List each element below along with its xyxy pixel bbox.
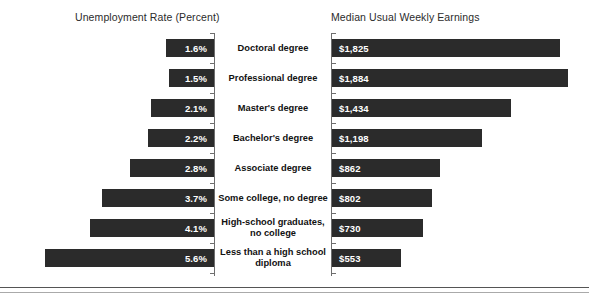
chart-row: 2.2%Bachelor's degree$1,198 bbox=[0, 123, 589, 153]
earnings-bar: $1,825 bbox=[332, 39, 560, 57]
axis-tick bbox=[210, 243, 214, 244]
axis-tick bbox=[210, 123, 214, 124]
category-label: Associate degree bbox=[215, 153, 331, 183]
unemployment-bar: 5.6% bbox=[45, 249, 214, 267]
unemployment-bar-value: 2.2% bbox=[185, 133, 207, 144]
chart-row: 2.1%Master's degree$1,434 bbox=[0, 93, 589, 123]
unemployment-bar: 2.8% bbox=[130, 159, 215, 177]
earnings-bar-value: $1,434 bbox=[339, 103, 369, 114]
earnings-bar-value: $802 bbox=[339, 193, 361, 204]
unemployment-bar: 1.5% bbox=[169, 69, 214, 87]
unemployment-bar-value: 5.6% bbox=[185, 253, 207, 264]
earnings-bar-value: $1,198 bbox=[339, 133, 369, 144]
axis-tick bbox=[332, 243, 336, 244]
axis-tick bbox=[210, 33, 214, 34]
axis-tick bbox=[332, 153, 336, 154]
axis-tick bbox=[332, 63, 336, 64]
axis-tick bbox=[210, 93, 214, 94]
category-label: High-school graduates, no college bbox=[215, 213, 331, 243]
unemployment-bar: 2.2% bbox=[148, 129, 214, 147]
category-label: Doctoral degree bbox=[215, 33, 331, 63]
chart-row: 1.6%Doctoral degree$1,825 bbox=[0, 33, 589, 63]
axis-tick bbox=[210, 183, 214, 184]
category-label: Some college, no degree bbox=[215, 183, 331, 213]
earnings-bar-value: $862 bbox=[339, 163, 361, 174]
bottom-divider-rule bbox=[0, 287, 589, 288]
column-header-weekly-earnings: Median Usual Weekly Earnings bbox=[331, 11, 480, 23]
unemployment-bar-value: 3.7% bbox=[185, 193, 207, 204]
axis-tick bbox=[332, 93, 336, 94]
category-label: Master's degree bbox=[215, 93, 331, 123]
earnings-bar: $1,884 bbox=[332, 69, 568, 87]
axis-tick bbox=[210, 63, 214, 64]
unemployment-bar: 4.1% bbox=[90, 219, 214, 237]
earnings-bar-value: $1,825 bbox=[339, 43, 369, 54]
category-label: Less than a high school diploma bbox=[215, 243, 331, 273]
unemployment-bar-value: 1.6% bbox=[185, 43, 207, 54]
axis-tick bbox=[210, 273, 214, 274]
unemployment-bar-value: 1.5% bbox=[185, 73, 207, 84]
education-unemployment-earnings-chart: Unemployment Rate (Percent) Median Usual… bbox=[0, 0, 589, 294]
earnings-bar: $730 bbox=[332, 219, 423, 237]
earnings-bar: $1,434 bbox=[332, 99, 511, 117]
category-label: Bachelor's degree bbox=[215, 123, 331, 153]
chart-row: 1.5%Professional degree$1,884 bbox=[0, 63, 589, 93]
plot-area: 1.6%Doctoral degree$1,8251.5%Professiona… bbox=[0, 33, 589, 276]
unemployment-bar-value: 4.1% bbox=[185, 223, 207, 234]
axis-tick bbox=[210, 153, 214, 154]
axis-tick bbox=[332, 213, 336, 214]
chart-row: 5.6%Less than a high school diploma$553 bbox=[0, 243, 589, 273]
chart-row: 3.7%Some college, no degree$802 bbox=[0, 183, 589, 213]
unemployment-bar: 3.7% bbox=[102, 189, 214, 207]
unemployment-bar: 2.1% bbox=[151, 99, 214, 117]
category-label: Professional degree bbox=[215, 63, 331, 93]
unemployment-bar: 1.6% bbox=[166, 39, 214, 57]
earnings-bar: $862 bbox=[332, 159, 440, 177]
column-header-unemployment-rate: Unemployment Rate (Percent) bbox=[75, 11, 220, 23]
unemployment-bar-value: 2.8% bbox=[185, 163, 207, 174]
axis-tick bbox=[210, 213, 214, 214]
unemployment-bar-value: 2.1% bbox=[185, 103, 207, 114]
axis-tick bbox=[332, 183, 336, 184]
earnings-bar-value: $553 bbox=[339, 253, 361, 264]
axis-tick bbox=[332, 123, 336, 124]
earnings-bar-value: $730 bbox=[339, 223, 361, 234]
bottom-divider-rule-2 bbox=[0, 292, 589, 293]
chart-row: 2.8%Associate degree$862 bbox=[0, 153, 589, 183]
earnings-bar-value: $1,884 bbox=[339, 73, 369, 84]
earnings-bar: $802 bbox=[332, 189, 432, 207]
earnings-bar: $1,198 bbox=[332, 129, 482, 147]
axis-tick bbox=[332, 273, 336, 274]
chart-row: 4.1%High-school graduates, no college$73… bbox=[0, 213, 589, 243]
axis-tick bbox=[332, 33, 336, 34]
earnings-bar: $553 bbox=[332, 249, 401, 267]
